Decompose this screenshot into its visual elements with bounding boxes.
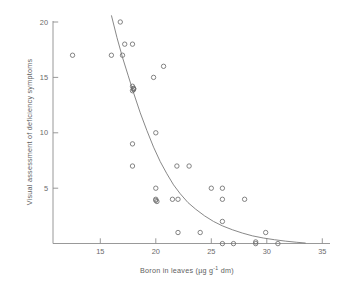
plot-canvas: 20 15 10 5 15 20 25 30 35 Boron in leave… <box>0 0 341 285</box>
y-tick-label-5: 5 <box>44 184 48 193</box>
data-point <box>161 64 165 68</box>
svg-text:Boron in leaves (µg g-1 dm): Boron in leaves (µg g-1 dm) <box>140 265 234 275</box>
data-point-group <box>70 20 280 246</box>
x-axis-title: Boron in leaves (µg g-1 dm) <box>140 265 234 275</box>
data-point <box>242 197 246 201</box>
data-point <box>130 164 134 168</box>
data-point <box>70 53 74 57</box>
y-axis-ticks <box>53 22 58 188</box>
y-axis-tick-labels: 20 15 10 5 <box>40 18 48 193</box>
x-tick-label-15: 15 <box>96 247 104 256</box>
data-point <box>123 42 127 46</box>
data-point <box>187 164 191 168</box>
data-point <box>220 186 224 190</box>
y-tick-label-10: 10 <box>40 128 48 137</box>
scatter-plot-figure: 20 15 10 5 15 20 25 30 35 Boron in leave… <box>0 0 341 285</box>
data-point <box>176 197 180 201</box>
y-axis-title: Visual assessment of deficiency symptoms <box>25 59 34 206</box>
data-point <box>220 197 224 201</box>
data-point <box>154 131 158 135</box>
y-axis-title-text: Visual assessment of deficiency symptoms <box>25 59 34 206</box>
x-tick-label-20: 20 <box>152 247 160 256</box>
data-point <box>176 230 180 234</box>
data-point <box>154 186 158 190</box>
data-point <box>109 53 113 57</box>
fitted-curve <box>111 15 305 243</box>
data-point <box>263 230 267 234</box>
data-point <box>151 75 155 79</box>
y-tick-label-20: 20 <box>40 18 48 27</box>
x-tick-label-35: 35 <box>318 247 326 256</box>
data-point <box>175 164 179 168</box>
data-point <box>170 197 174 201</box>
data-point <box>220 219 224 223</box>
x-tick-label-25: 25 <box>207 247 215 256</box>
data-point <box>130 142 134 146</box>
y-tick-label-15: 15 <box>40 73 48 82</box>
x-axis-title-tail: dm) <box>218 266 233 275</box>
x-axis-ticks <box>100 238 322 243</box>
data-point <box>198 230 202 234</box>
data-point <box>118 20 122 24</box>
y-axis <box>49 21 54 244</box>
x-axis-title-main: Boron in leaves (µg g <box>140 266 213 275</box>
x-tick-label-30: 30 <box>263 247 271 256</box>
data-point <box>209 186 213 190</box>
data-point <box>130 42 134 46</box>
x-axis-tick-labels: 15 20 25 30 35 <box>96 247 326 256</box>
